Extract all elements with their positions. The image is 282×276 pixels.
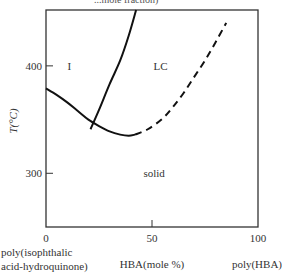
x-axis-label: HBA(mole %) <box>120 258 185 271</box>
y-axis-label: T(°C) <box>7 108 20 134</box>
x-end-label-left-line1: poly(isophthalic <box>1 246 73 259</box>
chart-title-partial: ...mole fraction) <box>94 0 158 6</box>
region-label-lc: LC <box>153 60 167 72</box>
x-tick-label-0: 0 <box>43 232 49 244</box>
x-tick-label-50: 50 <box>147 232 159 244</box>
plot-frame <box>46 10 258 227</box>
y-tick-label-300: 300 <box>26 167 43 179</box>
curve-isotropic-LC-boundary <box>91 10 137 129</box>
region-label-i: I <box>67 60 71 72</box>
x-end-label-right: poly(HBA) <box>232 258 282 271</box>
region-label-solid: solid <box>143 167 165 179</box>
phase-diagram: ...mole fraction) 050100300400 ILCsolid … <box>0 0 282 276</box>
y-tick-label-400: 400 <box>26 60 43 72</box>
curve-LC-solid-boundary <box>135 23 226 135</box>
x-tick-label-100: 100 <box>250 232 267 244</box>
x-end-label-left-line2: acid-hydroquinone) <box>1 260 88 273</box>
